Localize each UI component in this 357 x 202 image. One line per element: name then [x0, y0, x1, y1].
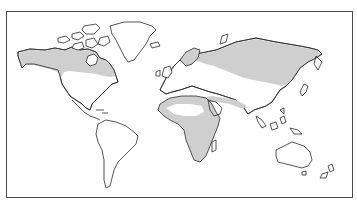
arctic-islands [58, 24, 110, 50]
greenland [110, 22, 156, 62]
north-america [18, 47, 118, 120]
british-isles [150, 42, 172, 78]
world-map [0, 0, 357, 202]
new-zealand [320, 164, 334, 178]
africa [158, 96, 222, 162]
south-america [96, 120, 138, 188]
australia [276, 142, 312, 175]
